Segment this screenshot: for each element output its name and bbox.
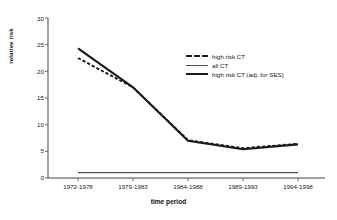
legend-label-all-ct: all CT [212, 62, 228, 69]
legend-item-high-risk-ct[interactable]: high risk CT [186, 52, 336, 61]
legend-label-high-risk-ct-adj-ses: high risk CT (adj. for SES) [212, 71, 284, 78]
legend-swatch-thick-line-icon [186, 70, 208, 79]
plot-area [0, 0, 337, 220]
legend-item-high-risk-ct-adj-ses[interactable]: high risk CT (adj. for SES) [186, 70, 336, 79]
legend-label-high-risk-ct: high risk CT [212, 53, 245, 60]
legend-swatch-thin-line-icon [186, 61, 208, 70]
legend-swatch-dashed-icon [186, 52, 208, 61]
legend: high risk CT all CT high risk CT (adj. f… [186, 52, 336, 79]
legend-item-all-ct[interactable]: all CT [186, 61, 336, 70]
relative-risk-line-chart: relative risk 30 25 20 15 10 5 0 1972-19… [0, 0, 337, 220]
